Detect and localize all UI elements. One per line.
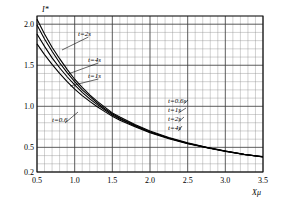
annotation-right-t2s: t=2s bbox=[168, 115, 181, 123]
annotation-right-t4s: t=4s bbox=[168, 124, 181, 132]
x-axis-label: Xμ bbox=[251, 188, 261, 197]
annotation-left-t06: t=0.6 bbox=[52, 116, 68, 124]
y-tick-label: 1.5 bbox=[24, 61, 34, 70]
y-tick-label: 0.5 bbox=[24, 143, 34, 152]
annotation-left-t2s-leader bbox=[62, 37, 88, 50]
x-tick-label: 0.5 bbox=[32, 176, 42, 185]
annotation-right-t06s: t=0.6s bbox=[168, 97, 186, 105]
line-chart: 0.51.01.52.02.53.03.50.20.51.01.52.0I*Xμ… bbox=[0, 0, 284, 207]
y-tick-label: 0.2 bbox=[24, 168, 34, 177]
x-tick-label: 2.5 bbox=[183, 176, 193, 185]
x-tick-label: 2.0 bbox=[145, 176, 155, 185]
y-tick-label: 1.0 bbox=[24, 102, 34, 111]
annotation-left-t1s: t=1s bbox=[88, 72, 101, 80]
grid-major bbox=[37, 16, 263, 172]
y-tick-label: 2.0 bbox=[24, 20, 34, 29]
annotation-left-t1s-leader bbox=[70, 79, 98, 86]
x-tick-label: 3.0 bbox=[220, 176, 230, 185]
x-tick-label: 1.5 bbox=[107, 176, 117, 185]
chart-figure: 0.51.01.52.02.53.03.50.20.51.01.52.0I*Xμ… bbox=[0, 0, 284, 207]
annotation-left-t2s: t=2s bbox=[78, 30, 91, 38]
annotation-right-t1s: t=1s bbox=[168, 106, 181, 114]
y-axis-label: I* bbox=[41, 5, 49, 14]
x-tick-label: 1.0 bbox=[70, 176, 80, 185]
x-tick-label: 3.5 bbox=[258, 176, 268, 185]
annotation-left-t4s: t=4s bbox=[88, 56, 101, 64]
